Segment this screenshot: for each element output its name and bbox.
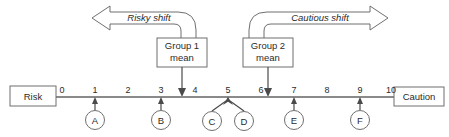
tick-label-7: 7	[291, 85, 296, 95]
group-1-mean-label-line1: Group 1	[165, 40, 199, 51]
risk-endpoint-label: Risk	[24, 91, 43, 102]
group-2-mean-callout: Group 2 mean	[243, 38, 293, 97]
risky-shift-arrow: Risky shift	[92, 6, 196, 42]
tick-label-9: 9	[357, 85, 362, 95]
marker-e-pointer-head	[291, 97, 297, 104]
tick-label-4: 4	[192, 85, 197, 95]
marker-d-pointer-line	[230, 101, 244, 111]
risk-endpoint: Risk	[10, 86, 56, 106]
tick-label-2: 2	[125, 85, 130, 95]
marker-a-label: A	[92, 115, 99, 126]
risk-caution-scale-diagram: Risky shift Cautious shift Group 1 mean …	[0, 0, 449, 137]
cautious-shift-arrow: Cautious shift	[249, 6, 388, 42]
group-2-mean-pointer-head	[264, 88, 272, 97]
marker-e-label: E	[291, 115, 297, 126]
caution-endpoint: Caution	[394, 87, 444, 106]
marker-f-pointer-head	[357, 97, 363, 104]
marker-f: F	[351, 97, 370, 130]
marker-c-label: C	[209, 116, 216, 127]
scale-tick-labels: 0 1 2 3 4 5 6 7 8 9 10	[59, 85, 396, 95]
marker-a: A	[86, 97, 105, 130]
marker-b-pointer-head	[158, 97, 164, 104]
marker-c: C	[203, 97, 230, 131]
marker-d-pointer-head	[227, 97, 233, 105]
group-2-mean-label-line2: mean	[256, 52, 280, 63]
marker-a-pointer-head	[92, 97, 98, 104]
tick-label-5: 5	[225, 85, 230, 95]
risky-shift-label: Risky shift	[127, 12, 171, 23]
caution-endpoint-label: Caution	[403, 91, 436, 102]
marker-b-label: B	[158, 115, 164, 126]
marker-e: E	[285, 97, 304, 130]
group-1-mean-pointer-head	[178, 88, 186, 97]
tick-label-3: 3	[158, 85, 163, 95]
marker-f-label: F	[357, 115, 363, 126]
tick-label-8: 8	[324, 85, 329, 95]
marker-c-pointer-line	[212, 101, 226, 111]
marker-b: B	[152, 97, 171, 130]
group-1-mean-callout: Group 1 mean	[157, 38, 207, 97]
marker-d-label: D	[241, 116, 248, 127]
tick-label-6: 6	[258, 85, 263, 95]
tick-label-10: 10	[386, 85, 396, 95]
marker-d: D	[227, 97, 254, 131]
group-2-mean-label-line1: Group 2	[251, 40, 285, 51]
tick-label-0: 0	[59, 85, 64, 95]
tick-label-1: 1	[92, 85, 97, 95]
cautious-shift-label: Cautious shift	[291, 12, 349, 23]
group-1-mean-label-line2: mean	[170, 52, 194, 63]
diagram-canvas: Risky shift Cautious shift Group 1 mean …	[0, 0, 449, 137]
